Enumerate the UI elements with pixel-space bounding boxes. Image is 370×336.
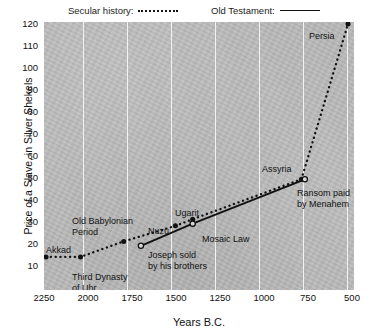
annotation-ransom-paid: Ransom paid by Menahem [297,188,350,209]
annotation-nuzu: Nuzu [148,226,169,237]
data-point-marker [121,239,126,244]
y-tick-label: 120 [0,19,38,29]
x-tick-label: 1500 [151,293,201,303]
annotation-third-dynasty: Third Dynasty of Uhr [72,272,128,290]
x-tick-label: 500 [327,293,370,303]
y-tick-label: 80 [0,107,38,117]
y-tick-label: 100 [0,63,38,73]
chart-legend: Secular history: Old Testament: [0,2,370,20]
slave-price-chart: Secular history: Old Testament: Price of… [0,0,370,336]
legend-label-old-testament: Old Testament: [211,3,275,19]
legend-swatch-dotted-line-icon [138,6,178,16]
y-tick-label: 30 [0,217,38,227]
y-tick-label: 50 [0,173,38,183]
x-tick-label: 750 [283,293,333,303]
data-point-marker [173,223,178,228]
y-tick-label: 90 [0,85,38,95]
x-tick-label: 2250 [19,293,69,303]
data-point-marker [190,221,195,226]
annotation-joseph-sold: Joseph sold by his brothers [148,250,207,271]
x-tick-label: 1750 [107,293,157,303]
legend-item-old-testament: Old Testament: [211,3,320,19]
data-point-marker [302,177,307,182]
legend-swatch-solid-line-icon [280,6,320,16]
y-tick-label: 20 [0,239,38,249]
x-tick-label: 1000 [239,293,289,303]
data-point-marker [346,22,351,27]
annotation-ugarit: Ugarit [175,208,199,219]
x-tick-label: 2000 [63,293,113,303]
y-tick-label: 60 [0,151,38,161]
plot-area: Akkad Third Dynasty of Uhr Old Babylonia… [44,22,354,290]
y-tick-label: 70 [0,129,38,139]
legend-label-secular-history: Secular history: [68,3,133,19]
y-tick-label: 10 [0,261,38,271]
x-axis-title: Years B.C. [44,316,354,328]
data-point-marker [78,254,83,259]
annotation-assyria: Assyria [262,164,292,175]
annotation-persia: Persia [309,31,335,42]
y-tick-label: 40 [0,195,38,205]
annotation-akkad: Akkad [46,245,71,256]
data-point-marker [138,243,143,248]
annotation-mosaic-law: Mosaic Law [202,234,250,245]
x-tick-label: 1250 [195,293,245,303]
legend-item-secular-history: Secular history: [68,3,178,19]
annotation-old-babylonian: Old Babylonian Period [72,216,133,237]
y-tick-label: 110 [0,41,38,51]
